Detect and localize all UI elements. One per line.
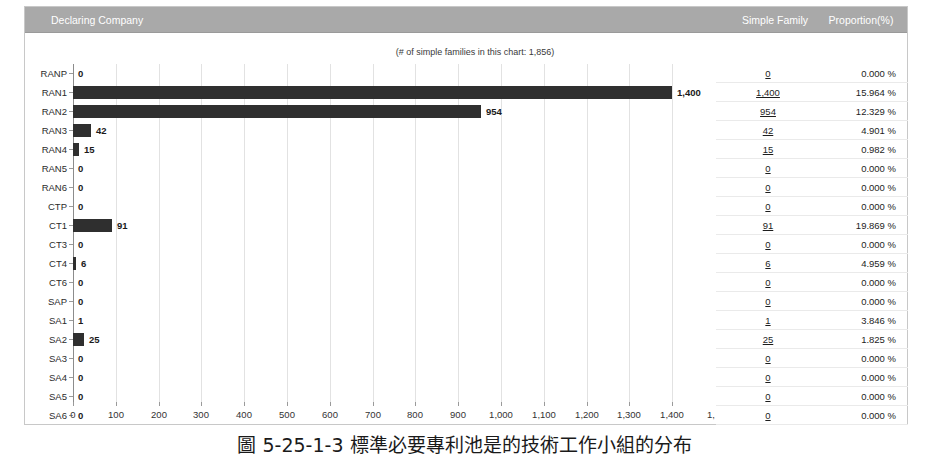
table-row: 00.000 % xyxy=(716,159,908,178)
x-axis-tick xyxy=(201,402,202,406)
bar-sa2[interactable] xyxy=(73,333,84,346)
cell-simple-family: 0 xyxy=(716,368,820,387)
cell-simple-family: 15 xyxy=(716,140,820,159)
x-axis-tick xyxy=(458,402,459,406)
simple-family-link[interactable]: 0 xyxy=(765,391,770,402)
figure-caption: 圖 5-25-1-3 標準必要專利池是的技術工作小組的分布 xyxy=(0,430,929,457)
x-axis-tick xyxy=(501,402,502,406)
report-panel-frame: Declaring Company Simple Family Proporti… xyxy=(24,6,908,425)
simple-family-link[interactable]: 25 xyxy=(763,334,774,345)
cell-simple-family: 954 xyxy=(716,102,820,121)
cell-simple-family: 0 xyxy=(716,273,820,292)
bar-row: 91 xyxy=(73,216,715,235)
cell-proportion: 1.825 % xyxy=(820,330,904,349)
bar-ct4[interactable] xyxy=(73,257,76,270)
y-axis-label-ctp: CTP xyxy=(48,197,67,216)
x-axis-tick xyxy=(116,402,117,406)
table-row: 00.000 % xyxy=(716,178,908,197)
bar-row: 15 xyxy=(73,140,715,159)
simple-family-link[interactable]: 0 xyxy=(765,163,770,174)
bar-ct1[interactable] xyxy=(73,219,112,232)
simple-family-link[interactable]: 0 xyxy=(765,239,770,250)
x-axis-tick xyxy=(330,402,331,406)
bar-row: 0 xyxy=(73,292,715,311)
bar-value-label: 954 xyxy=(486,104,502,119)
x-axis-tick xyxy=(159,402,160,406)
bar-value-label: 0 xyxy=(78,275,83,290)
chart-x-axis: 01002003004005006007008009001,0001,1001,… xyxy=(73,402,715,422)
simple-family-link[interactable]: 0 xyxy=(765,277,770,288)
y-axis-label-ran4: RAN4 xyxy=(42,140,67,159)
cell-proportion: 4.901 % xyxy=(820,121,904,140)
cell-simple-family: 1 xyxy=(716,311,820,330)
cell-simple-family: 0 xyxy=(716,159,820,178)
bar-value-label: 0 xyxy=(78,294,83,309)
x-axis-tick xyxy=(672,402,673,406)
simple-family-link[interactable]: 0 xyxy=(765,296,770,307)
table-row: 251.825 % xyxy=(716,330,908,349)
cell-proportion: 12.329 % xyxy=(820,102,904,121)
bar-row: 0 xyxy=(73,349,715,368)
cell-proportion: 0.000 % xyxy=(820,235,904,254)
bar-ran4[interactable] xyxy=(73,143,79,156)
simple-family-link[interactable]: 0 xyxy=(765,68,770,79)
y-axis-label-sa1: SA1 xyxy=(49,311,67,330)
simple-family-link[interactable]: 0 xyxy=(765,410,770,421)
y-axis-label-ran2: RAN2 xyxy=(42,102,67,121)
simple-family-link[interactable]: 15 xyxy=(763,144,774,155)
bar-row: 0 xyxy=(73,368,715,387)
y-axis-label-sa5: SA5 xyxy=(49,387,67,406)
simple-family-link[interactable]: 954 xyxy=(760,106,776,117)
bar-ran2[interactable] xyxy=(73,105,481,118)
y-axis-label-ct6: CT6 xyxy=(49,273,67,292)
table-row: 424.901 % xyxy=(716,121,908,140)
x-axis-tick xyxy=(415,402,416,406)
bar-ran3[interactable] xyxy=(73,124,91,137)
bar-value-label: 0 xyxy=(78,199,83,214)
simple-family-link[interactable]: 1 xyxy=(765,315,770,326)
y-axis-label-ran3: RAN3 xyxy=(42,121,67,140)
simple-family-link[interactable]: 91 xyxy=(763,220,774,231)
table-row: 00.000 % xyxy=(716,197,908,216)
bar-value-label: 6 xyxy=(81,256,86,271)
y-axis-label-sa3: SA3 xyxy=(49,349,67,368)
cell-proportion: 0.000 % xyxy=(820,159,904,178)
y-axis-label-ran5: RAN5 xyxy=(42,159,67,178)
simple-family-link[interactable]: 0 xyxy=(765,372,770,383)
y-axis-label-ct3: CT3 xyxy=(49,235,67,254)
bar-row: 0 xyxy=(73,64,715,83)
cell-proportion: 0.000 % xyxy=(820,197,904,216)
simple-family-link[interactable]: 0 xyxy=(765,182,770,193)
table-header-bar: Declaring Company Simple Family Proporti… xyxy=(25,7,907,33)
chart-y-axis-labels: RANPRAN1RAN2RAN3RAN4RAN5RAN6CTPCT1CT3CT4… xyxy=(25,64,73,422)
y-axis-label-sa4: SA4 xyxy=(49,368,67,387)
cell-simple-family: 1,400 xyxy=(716,83,820,102)
bar-value-label: 42 xyxy=(96,123,107,138)
table-row: 150.982 % xyxy=(716,140,908,159)
y-axis-label-ranp: RANP xyxy=(41,64,67,83)
simple-family-link[interactable]: 0 xyxy=(765,353,770,364)
simple-family-link[interactable]: 6 xyxy=(765,258,770,269)
bar-value-label: 1 xyxy=(78,313,83,328)
cell-simple-family: 6 xyxy=(716,254,820,273)
bar-value-label: 0 xyxy=(78,351,83,366)
data-table: 00.000 %1,40015.964 %95412.329 %424.901 … xyxy=(715,34,907,424)
table-row: 00.000 % xyxy=(716,235,908,254)
cell-simple-family: 0 xyxy=(716,235,820,254)
cell-proportion: 19.869 % xyxy=(820,216,904,235)
x-axis-tick xyxy=(587,402,588,406)
bar-row: 0 xyxy=(73,235,715,254)
cell-proportion: 4.959 % xyxy=(820,254,904,273)
cell-proportion: 0.982 % xyxy=(820,140,904,159)
simple-family-link[interactable]: 1,400 xyxy=(756,87,780,98)
bar-row: 42 xyxy=(73,121,715,140)
table-row: 13.846 % xyxy=(716,311,908,330)
bar-row: 25 xyxy=(73,330,715,349)
table-row: 1,40015.964 % xyxy=(716,83,908,102)
bar-row: 0 xyxy=(73,159,715,178)
simple-family-link[interactable]: 0 xyxy=(765,201,770,212)
bar-ran1[interactable] xyxy=(73,86,672,99)
simple-family-link[interactable]: 42 xyxy=(763,125,774,136)
y-axis-label-ran6: RAN6 xyxy=(42,178,67,197)
column-header-declaring-company: Declaring Company xyxy=(51,7,143,33)
